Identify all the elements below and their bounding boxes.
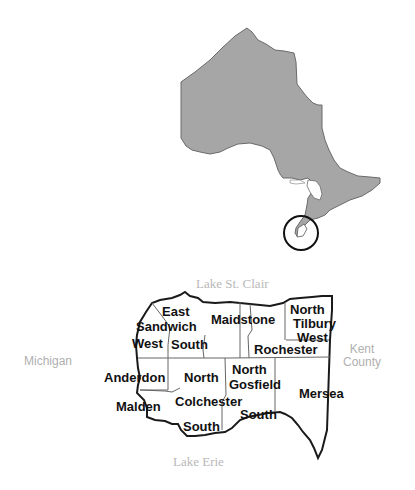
ontario-province-shape bbox=[181, 28, 380, 236]
label-anderdon: Anderdon bbox=[104, 371, 165, 384]
label-south-sandwich: South bbox=[171, 338, 208, 351]
label-north-gosfield: North bbox=[232, 363, 267, 376]
label-sandwich: Sandwich bbox=[136, 320, 197, 333]
label-maidstone: Maidstone bbox=[211, 313, 275, 326]
map-graphics bbox=[0, 0, 415, 490]
label-west: West bbox=[132, 337, 163, 350]
map-figure: Lake St. Clair Lake Erie Michigan Kent C… bbox=[0, 0, 415, 490]
label-south-gosfield: South bbox=[240, 408, 277, 421]
label-colchester: Colchester bbox=[175, 395, 242, 408]
michigan-label: Michigan bbox=[24, 355, 72, 368]
label-north-tilbury-1: North bbox=[290, 303, 325, 316]
label-mersea: Mersea bbox=[299, 387, 344, 400]
label-south-colchester: South bbox=[183, 420, 220, 433]
label-malden: Malden bbox=[116, 400, 161, 413]
label-gosfield: Gosfield bbox=[229, 378, 281, 391]
label-east: East bbox=[162, 305, 189, 318]
label-rochester: Rochester bbox=[254, 343, 318, 356]
label-north-colchester: North bbox=[184, 371, 219, 384]
lake-erie-label: Lake Erie bbox=[173, 455, 224, 468]
manitoulin-island-shape bbox=[290, 180, 305, 184]
lake-st-clair-label: Lake St. Clair bbox=[196, 277, 269, 290]
kent-county-label: Kent County bbox=[343, 343, 381, 369]
label-north-tilbury-2: Tilbury bbox=[293, 317, 336, 330]
county-label: County bbox=[343, 356, 381, 369]
